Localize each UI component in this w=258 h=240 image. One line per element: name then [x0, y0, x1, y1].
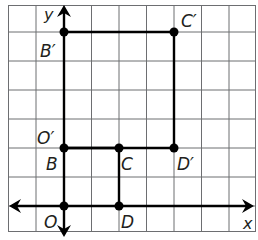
point-B	[60, 144, 69, 153]
axis-arrowheads	[9, 5, 254, 237]
coordinate-grid-diagram: y x B′ C′ O′ B C D′ O D	[0, 0, 258, 240]
point-D-prime	[170, 144, 179, 153]
x-axis-label: x	[242, 214, 253, 233]
label-C-prime: C′	[181, 11, 197, 31]
y-axis-label: y	[43, 5, 54, 24]
point-B-prime	[60, 28, 69, 37]
label-B-prime: B′	[40, 41, 56, 61]
point-O	[60, 202, 69, 211]
point-C-prime	[170, 28, 179, 37]
label-O-prime: O′	[37, 128, 54, 148]
grid	[9, 6, 256, 232]
label-C: C	[121, 154, 133, 174]
label-B: B	[46, 154, 58, 174]
label-O: O	[44, 212, 57, 232]
label-D-prime: D′	[177, 154, 194, 174]
point-C	[115, 144, 124, 153]
label-D: D	[121, 212, 134, 232]
point-D	[115, 202, 124, 211]
